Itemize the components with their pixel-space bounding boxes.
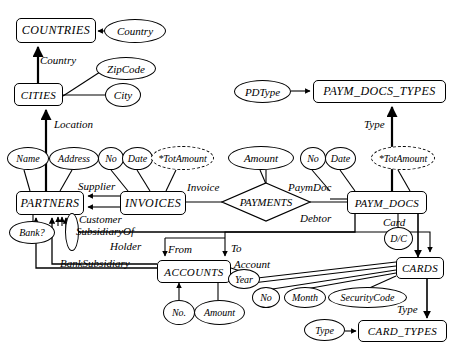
attribute-card-type[interactable]: Type	[304, 319, 345, 341]
attribute-invoice-date[interactable]: Date	[122, 147, 153, 170]
entity-invoices[interactable]: INVOICES	[120, 191, 186, 215]
attribute-invoice-no[interactable]: No	[98, 147, 124, 170]
attribute-name-label: Name	[16, 153, 39, 164]
attribute-year-label: Year	[235, 274, 253, 285]
entity-paym-docs-types-label: PAYM_DOCS_TYPES	[323, 84, 435, 99]
attribute-debit-credit[interactable]: D/C	[384, 227, 413, 250]
edge-label-location-role: Location	[54, 118, 93, 130]
entity-cards-label: CARDS	[402, 262, 438, 274]
attribute-invoice-totamount-label: *TotAmount	[158, 153, 207, 164]
attribute-paymdoc-totamount[interactable]: *TotAmount	[371, 146, 435, 170]
attribute-paymdoc-date[interactable]: Date	[325, 147, 356, 170]
attribute-pdtype[interactable]: PDType	[234, 80, 291, 103]
entity-cities[interactable]: CITIES	[14, 83, 63, 106]
attribute-amount[interactable]: Amount	[228, 146, 294, 170]
attribute-zipcode-label: ZipCode	[107, 63, 145, 75]
entity-cards[interactable]: CARDS	[396, 257, 444, 279]
attribute-account-no-label: No.	[172, 307, 186, 318]
attribute-paymdoc-no-label: No	[307, 153, 319, 164]
attribute-security-code[interactable]: SecurityCode	[328, 287, 407, 308]
edge-label-paymdoc-role: PaymDoc	[288, 181, 331, 193]
attribute-account-no[interactable]: No.	[163, 300, 195, 325]
entity-partners-label: PARTNERS	[21, 196, 80, 211]
attribute-year[interactable]: Year	[228, 269, 260, 289]
edge-label-holder-role: Holder	[110, 240, 141, 252]
attribute-paymdoc-date-label: Date	[331, 153, 350, 164]
edge-label-country-role: Country	[40, 54, 76, 66]
entity-countries-label: COUNTRIES	[22, 23, 90, 38]
entity-paym-docs[interactable]: PAYM_DOCS	[347, 191, 427, 214]
edge-label-from-role: From	[168, 243, 192, 255]
attribute-city[interactable]: City	[105, 83, 141, 107]
edge-label-supplier-role: Supplier	[78, 180, 115, 192]
edge-label-customer-role: Customer	[79, 213, 122, 225]
entity-accounts[interactable]: ACCOUNTS	[157, 260, 231, 283]
attribute-card-type-label: Type	[315, 325, 334, 336]
edge-label-card-role: Card	[383, 216, 405, 228]
attribute-amount-label: Amount	[244, 152, 278, 164]
edge-label-invoice-role: Invoice	[187, 181, 219, 193]
attribute-card-no[interactable]: No	[252, 287, 280, 308]
attribute-country[interactable]: Country	[104, 19, 166, 43]
attribute-account-amount-label: Amount	[204, 307, 235, 318]
entity-cities-label: CITIES	[21, 89, 56, 101]
entity-countries[interactable]: COUNTRIES	[16, 18, 96, 43]
attribute-bank-label: Bank?	[19, 227, 45, 238]
entity-paym-docs-label: PAYM_DOCS	[355, 197, 420, 209]
er-diagram-canvas: COUNTRIES CITIES PAYM_DOCS_TYPES PARTNER…	[0, 0, 457, 352]
attribute-name[interactable]: Name	[7, 147, 49, 170]
edge-label-debtor-role: Debtor	[300, 212, 331, 224]
attribute-address-label: Address	[58, 153, 90, 164]
attribute-address[interactable]: Address	[49, 147, 99, 170]
attribute-invoice-date-label: Date	[128, 153, 147, 164]
attribute-month[interactable]: Month	[284, 287, 326, 308]
entity-paym-docs-types[interactable]: PAYM_DOCS_TYPES	[313, 80, 446, 103]
attribute-month-label: Month	[292, 292, 318, 303]
attribute-invoice-totamount[interactable]: *TotAmount	[151, 146, 214, 170]
entity-partners[interactable]: PARTNERS	[16, 191, 84, 215]
edge-label-type-card-types: Type	[397, 303, 418, 315]
entity-accounts-label: ACCOUNTS	[164, 266, 223, 278]
attribute-country-label: Country	[117, 25, 153, 37]
attribute-invoice-no-label: No	[105, 153, 117, 164]
edge-label-banksubsidiary-role: BankSubsidiary	[60, 257, 130, 269]
attribute-paymdoc-totamount-label: *TotAmount	[379, 153, 428, 164]
entity-card-types-label: CARD_TYPES	[368, 325, 437, 337]
entity-card-types[interactable]: CARD_TYPES	[358, 320, 447, 342]
attribute-debit-credit-label: D/C	[390, 233, 407, 244]
edge-label-to-role: To	[231, 242, 242, 254]
attribute-bank[interactable]: Bank?	[9, 221, 55, 244]
edge-label-subsidiaryof-role: SubsidiaryOf	[76, 225, 134, 237]
attribute-card-no-label: No	[260, 292, 272, 303]
entity-invoices-label: INVOICES	[125, 196, 181, 211]
attribute-paymdoc-no[interactable]: No	[300, 147, 326, 170]
attribute-security-code-label: SecurityCode	[341, 292, 395, 303]
edge-label-account-role: Account	[234, 258, 270, 270]
attribute-zipcode[interactable]: ZipCode	[96, 57, 156, 80]
attribute-pdtype-label: PDType	[245, 86, 280, 98]
attribute-city-label: City	[114, 89, 132, 101]
attribute-account-amount[interactable]: Amount	[194, 300, 245, 325]
edge-label-type-paym-docs-types: Type	[364, 118, 385, 130]
